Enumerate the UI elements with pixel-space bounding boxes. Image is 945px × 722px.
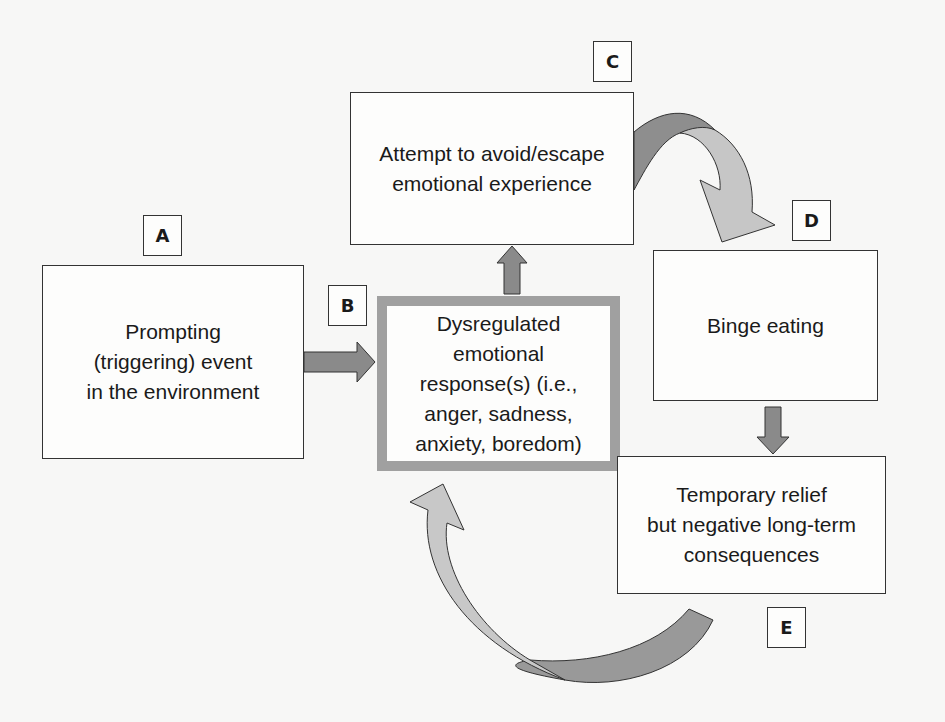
node-e-text: Temporary relief but negative long-term … xyxy=(647,480,856,570)
curved-arrow-c-to-d xyxy=(634,113,775,242)
node-d-text: Binge eating xyxy=(707,311,824,341)
node-b-label: B xyxy=(328,285,367,326)
node-c-avoid-escape: Attempt to avoid/escape emotional experi… xyxy=(350,92,634,245)
node-a-prompting-event: Prompting (triggering) event in the envi… xyxy=(42,265,304,459)
node-d-label: D xyxy=(792,200,831,241)
arrow-d-to-e xyxy=(757,407,789,454)
node-e-label: E xyxy=(767,607,806,648)
node-c-label: C xyxy=(593,41,632,82)
node-c-text: Attempt to avoid/escape emotional experi… xyxy=(379,139,604,199)
node-a-text: Prompting (triggering) event in the envi… xyxy=(87,317,260,407)
arrow-a-to-b xyxy=(304,342,375,382)
node-b-dysregulated-response: Dysregulated emotional response(s) (i.e.… xyxy=(377,296,620,471)
node-d-binge-eating: Binge eating xyxy=(653,250,878,401)
node-a-label: A xyxy=(143,215,182,256)
node-e-temporary-relief: Temporary relief but negative long-term … xyxy=(617,456,886,594)
arrow-b-to-c xyxy=(497,246,527,294)
node-b-text: Dysregulated emotional response(s) (i.e.… xyxy=(415,309,582,459)
